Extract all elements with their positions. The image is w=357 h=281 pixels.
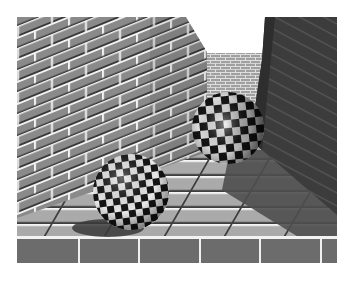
floor-front-face bbox=[17, 239, 337, 263]
left-wall-shading bbox=[150, 17, 207, 172]
floor-front-edge bbox=[17, 236, 337, 239]
rendered-scene bbox=[0, 0, 357, 281]
